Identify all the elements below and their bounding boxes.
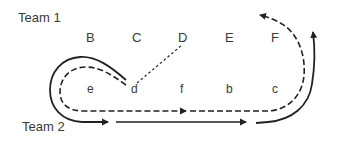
route-paths xyxy=(0,0,341,142)
dashed-route xyxy=(60,15,304,111)
dotted-connector xyxy=(137,45,182,83)
